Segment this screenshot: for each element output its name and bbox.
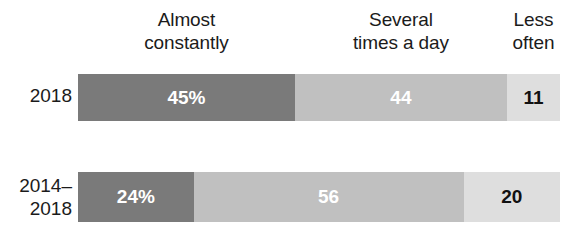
- chart-legend-headers: Almost constantly Several times a day Le…: [78, 4, 560, 70]
- column-header-line1: Less: [507, 8, 560, 31]
- segment-value-label: 11: [523, 87, 543, 109]
- row-label-line1: 2018: [30, 84, 72, 107]
- column-header-line1: Almost: [78, 8, 295, 31]
- column-header-line2: often: [507, 31, 560, 54]
- row-label-line1: 2014–: [19, 174, 72, 197]
- segment-several-times-a-day: 44: [295, 74, 507, 121]
- column-header-less-often: Less often: [507, 8, 560, 54]
- segment-value-label: 44: [390, 87, 411, 109]
- segment-value-label: 56: [318, 186, 339, 208]
- segment-less-often: 20: [464, 172, 560, 222]
- column-header-almost-constantly: Almost constantly: [78, 8, 295, 54]
- column-header-line1: Several: [295, 8, 507, 31]
- column-header-line2: constantly: [78, 31, 295, 54]
- segment-value-label: 24%: [117, 186, 155, 208]
- segment-several-times-a-day: 56: [194, 172, 464, 222]
- row-label-2014-2018: 2014– 2018: [19, 174, 72, 220]
- segment-less-often: 11: [507, 74, 560, 121]
- column-header-line2: times a day: [295, 31, 507, 54]
- bar-row-2014-2018: 24% 56 20: [78, 172, 560, 222]
- bar-row-2018: 45% 44 11: [78, 74, 560, 121]
- segment-almost-constantly: 45%: [78, 74, 295, 121]
- segment-almost-constantly: 24%: [78, 172, 194, 222]
- stacked-bar-chart: Almost constantly Several times a day Le…: [0, 0, 571, 234]
- column-header-several-times-a-day: Several times a day: [295, 8, 507, 54]
- segment-value-label: 20: [501, 186, 522, 208]
- segment-value-label: 45%: [167, 87, 205, 109]
- row-label-2018: 2018: [30, 84, 72, 107]
- row-label-line2: 2018: [19, 197, 72, 220]
